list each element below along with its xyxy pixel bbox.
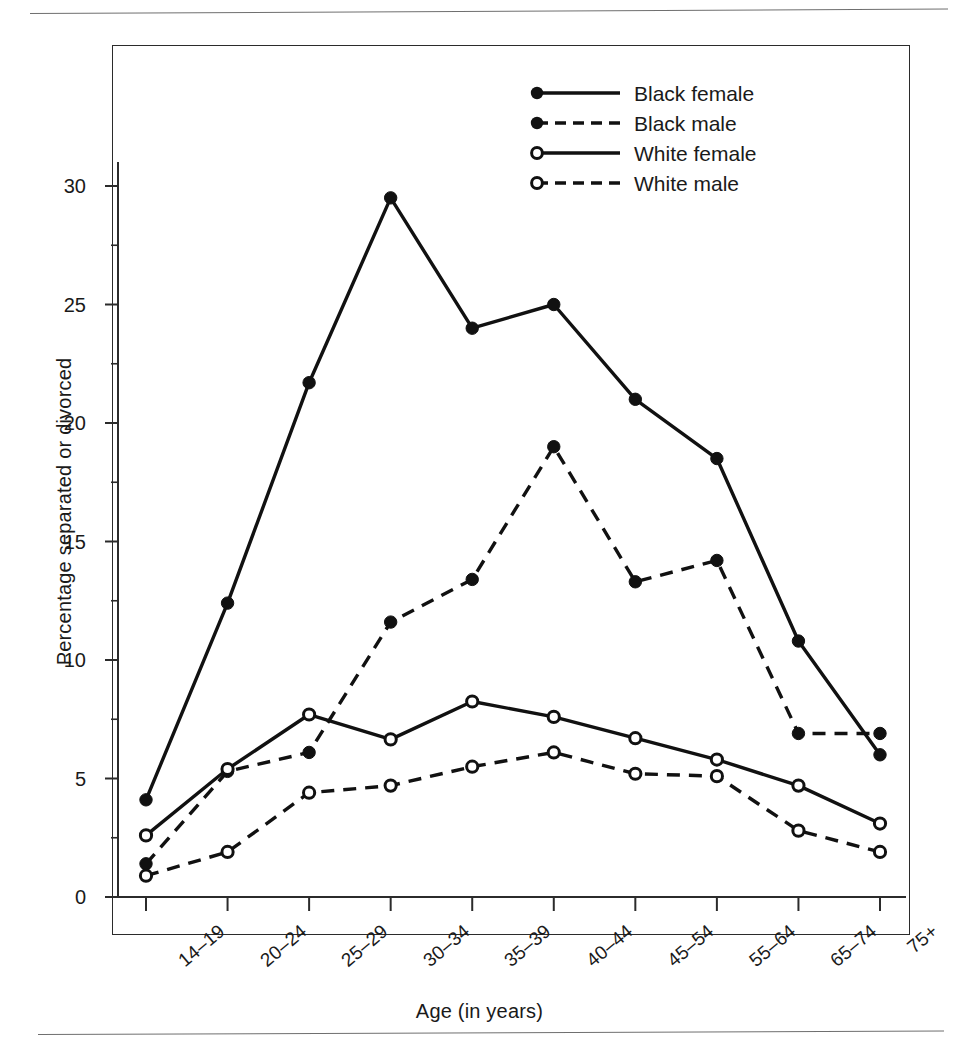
page-rule-bottom <box>38 1031 944 1035</box>
y-tick-label: 30 <box>26 176 86 196</box>
chart-legend: Black femaleBlack maleWhite femaleWhite … <box>528 78 828 198</box>
legend-item-2: White female <box>528 138 828 168</box>
legend-item-3: White male <box>528 168 828 198</box>
legend-label: Black male <box>634 113 737 134</box>
y-tick-label: 5 <box>26 769 86 789</box>
y-tick-label: 10 <box>26 650 86 670</box>
y-tick-label: 15 <box>26 532 86 552</box>
y-tick-label: 0 <box>26 887 86 907</box>
legend-swatch-icon <box>528 111 624 135</box>
page-rule-top <box>30 9 948 14</box>
y-tick-label: 25 <box>26 295 86 315</box>
legend-item-0: Black female <box>528 78 828 108</box>
legend-label: White male <box>634 173 739 194</box>
legend-label: White female <box>634 143 757 164</box>
legend-label: Black female <box>634 83 754 104</box>
legend-swatch-icon <box>528 81 624 105</box>
legend-item-1: Black male <box>528 108 828 138</box>
x-axis-title: Age (in years) <box>0 1000 959 1023</box>
y-tick-label: 20 <box>26 413 86 433</box>
legend-swatch-icon <box>528 141 624 165</box>
legend-swatch-icon <box>528 171 624 195</box>
